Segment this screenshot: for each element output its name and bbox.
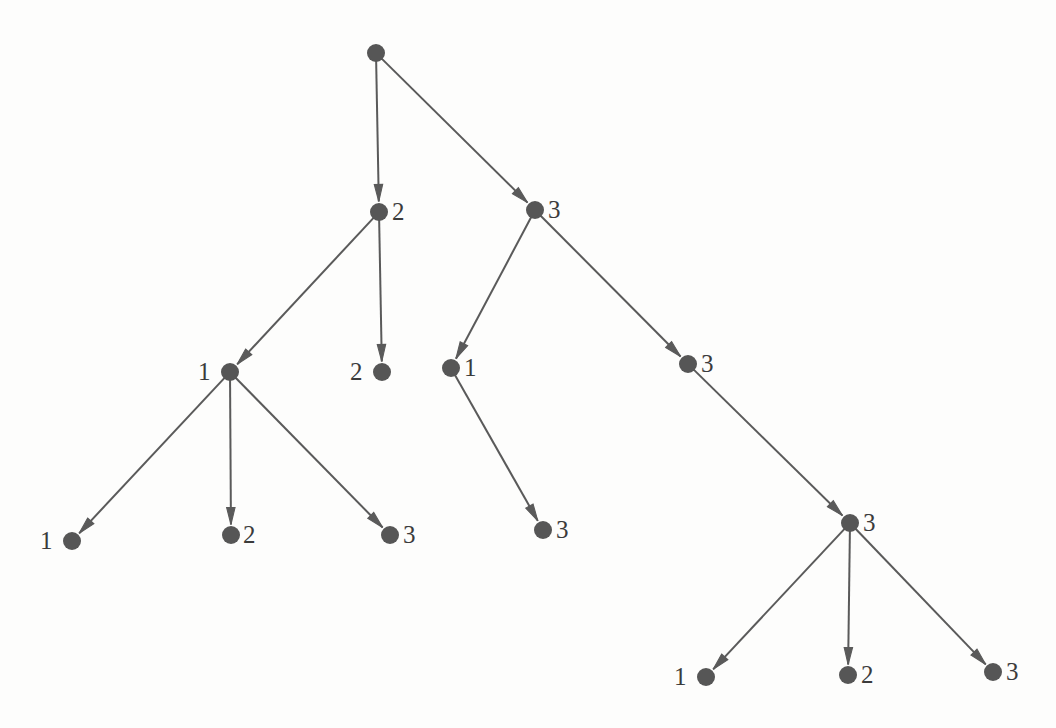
edge-arrowhead: [377, 344, 385, 361]
tree-node-n3[interactable]: [526, 201, 544, 219]
edges-layer: [79, 59, 986, 670]
edge-arrowhead: [844, 647, 852, 664]
tree-edge: [377, 220, 385, 362]
tree-node-n3-3-3[interactable]: [841, 514, 859, 532]
tree-node-n2-1-1[interactable]: [63, 532, 81, 550]
tree-edge: [236, 378, 383, 528]
node-label-n3-3-3-2: 2: [861, 662, 874, 687]
tree-edge: [856, 529, 986, 665]
tree-node-n3-3-3-1[interactable]: [697, 668, 715, 686]
tree-edge: [227, 380, 235, 525]
tree-node-root[interactable]: [367, 44, 385, 62]
node-label-n2: 2: [392, 199, 405, 224]
tree-edge: [844, 531, 852, 665]
tree-edge: [382, 59, 528, 203]
edge-arrowhead: [227, 507, 235, 524]
tree-edge: [541, 216, 681, 357]
node-label-n2-1: 1: [198, 359, 211, 384]
tree-edge: [237, 218, 373, 364]
node-label-n2-1-3: 3: [403, 522, 416, 547]
node-label-n3-3-3-3: 3: [1006, 659, 1019, 684]
node-label-n2-1-1: 1: [40, 528, 53, 553]
tree-edge: [456, 217, 531, 359]
tree-diagram-figure: 23121312333123: [0, 0, 1056, 728]
tree-node-n3-3[interactable]: [679, 355, 697, 373]
edge-arrowhead: [374, 184, 382, 201]
tree-node-n2-2[interactable]: [373, 363, 391, 381]
tree-edge: [713, 529, 844, 669]
edge-arrowhead: [526, 504, 538, 521]
node-label-n3-3-3: 3: [863, 510, 876, 535]
tree-edge: [79, 378, 224, 533]
node-label-n2-2: 2: [350, 359, 363, 384]
tree-node-n3-1[interactable]: [442, 359, 460, 377]
tree-node-n2-1-2[interactable]: [222, 526, 240, 544]
node-label-n3-1-3: 3: [556, 517, 569, 542]
tree-edge: [694, 370, 843, 516]
tree-node-n2-1-3[interactable]: [381, 526, 399, 544]
tree-node-n3-1-3[interactable]: [534, 521, 552, 539]
tree-edge: [455, 375, 538, 521]
tree-node-n3-3-3-3[interactable]: [984, 663, 1002, 681]
node-label-n3-1: 1: [464, 355, 477, 380]
tree-diagram-canvas: [0, 0, 1056, 728]
tree-node-n2[interactable]: [370, 203, 388, 221]
tree-edge: [374, 61, 382, 202]
node-label-n3-3: 3: [701, 351, 714, 376]
node-label-n2-1-2: 2: [243, 522, 256, 547]
tree-node-n2-1[interactable]: [221, 363, 239, 381]
tree-node-n3-3-3-2[interactable]: [839, 666, 857, 684]
node-label-n3: 3: [548, 197, 561, 222]
node-label-n3-3-3-1: 1: [674, 664, 687, 689]
